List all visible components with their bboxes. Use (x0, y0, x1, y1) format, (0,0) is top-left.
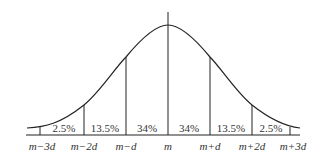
pct-label-1: 2.5% (53, 122, 76, 134)
axis-label-m+3d: m+3d (280, 140, 307, 152)
axis-label-m-2d: m−2d (71, 140, 98, 152)
axis-label-m+2d: m+2d (239, 140, 266, 152)
pct-label-3: 34% (137, 122, 157, 134)
pct-label-6: 2.5% (260, 122, 283, 134)
normal-distribution-diagram: 2.5% 13.5% 34% 34% 13.5% 2.5% m−3d m−2d … (0, 0, 315, 159)
pct-label-4: 34% (179, 122, 199, 134)
pct-label-5: 13.5% (217, 122, 245, 134)
axis-label-m-3d: m−3d (29, 140, 56, 152)
bell-curve (27, 25, 300, 128)
axis-label-m+d: m+d (200, 140, 221, 152)
axis-label-m-d: m−d (116, 140, 137, 152)
axis-label-m: m (164, 140, 172, 152)
pct-label-2: 13.5% (91, 122, 119, 134)
